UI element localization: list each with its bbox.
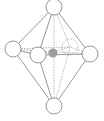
central-atom-icon: [49, 49, 58, 58]
edge-top-right: [54, 7, 90, 54]
octahedral-molecule-diagram: [0, 0, 104, 121]
ligand-sphere-left-icon: [5, 41, 21, 57]
ligand-sphere-bottom-icon: [46, 98, 62, 114]
edge-bottom-right: [54, 54, 90, 106]
ligand-sphere-right-icon: [82, 46, 98, 62]
ligand-sphere-top-icon: [46, 0, 62, 15]
ligand-sphere-front-icon: [30, 47, 46, 63]
edge-top-left: [13, 7, 54, 49]
